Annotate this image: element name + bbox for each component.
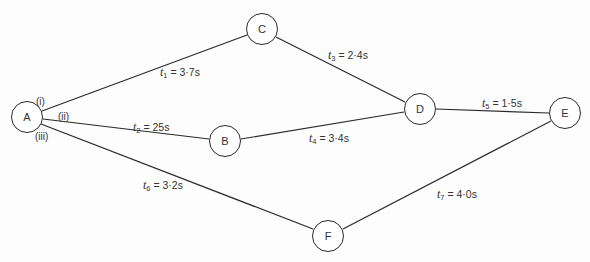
edge-label-t2: t2 = 25s <box>133 120 169 135</box>
node-b: B <box>209 125 241 157</box>
node-e: E <box>549 97 581 129</box>
edge-label-t1: t1 = 3·7s <box>160 65 200 80</box>
node-c: C <box>246 13 278 45</box>
path-label-iii: (iii) <box>35 131 48 142</box>
node-d: D <box>404 93 436 125</box>
path-label-i: (i) <box>36 96 45 107</box>
node-f: F <box>312 220 344 252</box>
edge-f-e <box>343 121 551 229</box>
edge-a-f <box>41 124 313 229</box>
edge-label-t5: t5 = 1·5s <box>482 96 522 111</box>
edge-label-t4: t4 = 3·4s <box>309 131 349 146</box>
node-a-label: A <box>23 111 30 123</box>
edge-c-d <box>276 37 405 102</box>
edge-a-c <box>42 35 247 111</box>
edges-layer <box>0 0 590 262</box>
path-label-ii: (ii) <box>58 111 69 122</box>
edge-label-t6: t6 = 3·2s <box>143 178 183 193</box>
edge-a-b <box>43 119 209 139</box>
edge-label-t3: t3 = 2·4s <box>328 48 368 63</box>
edge-label-t7: t7 = 4·0s <box>437 187 477 202</box>
node-f-label: F <box>325 230 332 242</box>
network-diagram: A B C D E F (i) (ii) (iii) t1 = 3·7s t2 … <box>0 0 590 262</box>
node-d-label: D <box>416 103 424 115</box>
node-c-label: C <box>258 23 266 35</box>
node-b-label: B <box>221 135 228 147</box>
node-e-label: E <box>561 107 568 119</box>
